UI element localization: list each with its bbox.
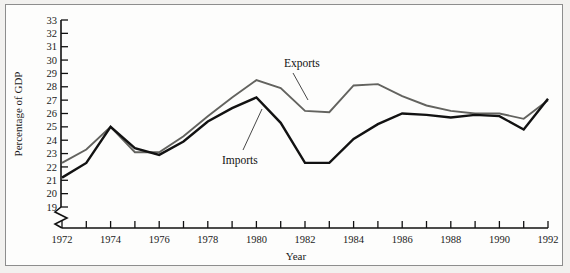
x-tick-label: 1976 [149, 234, 170, 245]
y-tick-label: 30 [47, 55, 58, 66]
y-tick-label: 28 [47, 81, 58, 92]
imports-label: Imports [222, 154, 258, 167]
x-tick-label-group: 1972197419761978198019821984198619881990… [52, 234, 559, 245]
x-tick-label: 1992 [538, 234, 559, 245]
y-tick-label: 32 [47, 28, 58, 39]
x-tick-label: 1986 [392, 234, 413, 245]
x-tick-label: 1990 [489, 234, 510, 245]
y-tick-label: 29 [47, 68, 58, 79]
annotation-exports: Exports [284, 57, 320, 100]
x-tick-label: 1988 [440, 234, 461, 245]
x-axis-title: Year [286, 250, 307, 262]
figure-container: 192021222324252627282930313233 197219741… [0, 0, 570, 273]
exports-leader-line [293, 73, 308, 100]
y-tick-group [61, 20, 68, 207]
y-tick-label: 20 [47, 188, 58, 199]
x-tick-label: 1974 [100, 234, 122, 245]
y-tick-label: 25 [47, 121, 58, 132]
y-tick-label: 26 [47, 108, 58, 119]
series-line-exports [62, 80, 548, 163]
y-tick-label: 33 [47, 15, 58, 26]
annotation-imports: Imports [222, 109, 262, 167]
exports-label: Exports [284, 57, 320, 70]
y-tick-label: 23 [47, 148, 58, 159]
y-tick-label: 27 [47, 95, 58, 106]
y-tick-label: 21 [47, 175, 58, 186]
y-tick-label: 19 [47, 202, 58, 213]
series-line-imports [62, 97, 548, 177]
y-tick-label-group: 192021222324252627282930313233 [47, 15, 58, 213]
x-tick-label: 1972 [52, 234, 73, 245]
x-tick-label: 1978 [197, 234, 218, 245]
x-tick-label: 1980 [246, 234, 267, 245]
imports-leader-line [243, 109, 262, 150]
y-tick-label: 22 [47, 162, 58, 173]
x-tick-label: 1984 [343, 234, 365, 245]
x-tick-label: 1982 [295, 234, 316, 245]
y-tick-label: 24 [47, 135, 58, 146]
x-tick-group [62, 221, 548, 228]
y-tick-label: 31 [47, 41, 58, 52]
line-chart: 192021222324252627282930313233 197219741… [0, 0, 570, 273]
y-axis-title: Percentage of GDP [12, 72, 24, 157]
